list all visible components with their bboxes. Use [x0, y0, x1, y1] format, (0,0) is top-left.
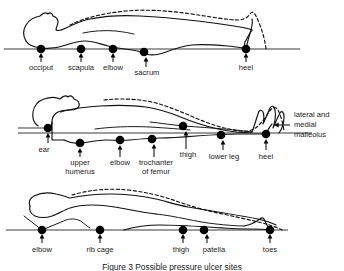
supine-foot-toe: [246, 19, 252, 49]
point-patella: [200, 226, 209, 235]
label-sacrum: sacrum: [135, 68, 160, 77]
label-malleolus-line3: malleolus: [294, 130, 326, 139]
point-lower-leg: [217, 131, 226, 140]
side-lying-arm-detail: [95, 127, 190, 130]
point-scapula: [77, 45, 86, 54]
label-upper-humerus-line2: humerus: [65, 167, 95, 176]
label-elbow: elbow: [32, 245, 52, 254]
label-heel: heel: [239, 63, 254, 72]
prone-forearm-detail: [42, 219, 90, 230]
point-heel: [242, 45, 251, 54]
point-occiput: [37, 45, 46, 54]
label-elbow: elbow: [103, 63, 123, 72]
label-thigh: thigh: [180, 150, 196, 159]
point-elbow: [109, 45, 118, 54]
prone-legs-outline: [124, 225, 270, 230]
prone-leader-arrows: [40, 234, 273, 243]
panel-prone: elbow rib cage thigh patella toes: [6, 189, 288, 254]
supine-points: [37, 45, 251, 57]
prone-head-underside: [30, 205, 156, 218]
label-thigh: thigh: [173, 245, 189, 254]
supine-underside-outline: [26, 41, 246, 55]
label-rib-cage: rib cage: [86, 245, 113, 254]
point-upper-humerus: [76, 139, 85, 148]
point-trochanter-of-femur: [148, 135, 157, 144]
side-lying-torso-outline: [60, 105, 252, 132]
point-heel: [262, 130, 271, 139]
label-lower-leg: lower leg: [209, 152, 239, 161]
label-heel: heel: [259, 152, 274, 161]
point-elbow: [38, 226, 47, 235]
point-sacrum: [140, 48, 149, 57]
label-trochanter-line1: trochanter: [139, 158, 174, 167]
side-lying-underside-outline: [64, 134, 266, 143]
point-toes: [266, 226, 275, 235]
point-thigh: [179, 226, 188, 235]
pressure-ulcer-sites-figure: occiput scapula elbow sacrum heel: [0, 0, 344, 271]
supine-body-outline: [24, 13, 252, 41]
panel-supine: occiput scapula elbow sacrum heel: [4, 10, 300, 77]
figure-illustration: occiput scapula elbow sacrum heel: [0, 0, 344, 271]
label-occiput: occiput: [29, 63, 54, 72]
label-malleolus-line2: medial: [294, 120, 317, 129]
point-thigh: [179, 122, 188, 131]
label-upper-humerus-line1: upper: [70, 158, 90, 167]
side-lying-neck-detail: [52, 122, 64, 140]
label-toes: toes: [263, 245, 278, 254]
panel-side-lying: ear upper humerus elbow trochanter of fe…: [18, 96, 329, 176]
supine-arm-detail: [83, 31, 134, 34]
point-elbow: [116, 136, 125, 145]
label-patella: patella: [203, 245, 226, 254]
side-lying-head-outline: [33, 96, 80, 128]
figure-caption: Figure 3 Possible pressure ulcer sites: [102, 262, 242, 271]
label-ear: ear: [39, 145, 50, 154]
label-elbow: elbow: [110, 158, 130, 167]
label-trochanter-line2: of femur: [142, 167, 170, 176]
point-ear: [44, 124, 53, 133]
label-malleolus-line1: lateral and: [294, 110, 329, 119]
label-scapula: scapula: [68, 63, 95, 72]
point-rib-cage: [96, 226, 105, 235]
